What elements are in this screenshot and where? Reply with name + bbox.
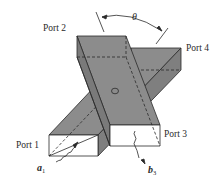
theta-ref-line-1 xyxy=(96,12,104,32)
coupler-diagram: Port 2 Port 4 Port 1 Port 3 θ a1 b3 xyxy=(0,0,224,188)
port1-label: Port 1 xyxy=(16,141,39,151)
port3-label: Port 3 xyxy=(164,130,187,140)
b3-subscript: 3 xyxy=(153,169,156,176)
b3-label: b3 xyxy=(148,165,156,177)
port2-label: Port 2 xyxy=(43,24,66,34)
a1-subscript: 1 xyxy=(42,167,45,174)
theta-label: θ xyxy=(132,12,137,22)
port4-label: Port 4 xyxy=(186,44,209,54)
waveguide-drawing xyxy=(0,0,224,188)
a1-label: a1 xyxy=(37,163,45,175)
